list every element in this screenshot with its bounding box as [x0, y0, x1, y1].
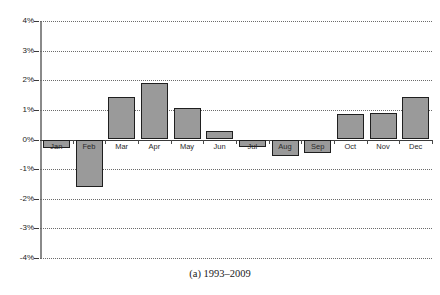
x-axis-tick-label: Jun	[203, 142, 236, 151]
figure: 4%3%2%1%0%-1%-2%-3%-4% JanFebMarAprMayJu…	[0, 0, 440, 295]
y-axis-tick-mark	[34, 51, 39, 52]
bar	[174, 108, 201, 140]
gridline	[40, 258, 432, 259]
x-axis-tick-label: Dec	[399, 142, 432, 151]
x-axis-tick-mark	[432, 140, 433, 144]
y-axis-tick-label: 3%	[0, 47, 34, 55]
y-axis-tick-mark	[34, 169, 39, 170]
y-axis-tick-mark	[34, 21, 39, 22]
y-axis-tick-label: -4%	[0, 254, 34, 262]
bar	[206, 131, 233, 140]
gridline	[40, 199, 432, 200]
x-axis-tick-label: Feb	[73, 142, 106, 151]
y-axis-tick-label: 1%	[0, 106, 34, 114]
y-axis-tick-label: 2%	[0, 76, 34, 84]
bar	[337, 114, 364, 139]
y-axis-tick-label: -1%	[0, 165, 34, 173]
y-axis-tick-mark	[34, 199, 39, 200]
x-axis-tick-label: Oct	[334, 142, 367, 151]
x-axis-tick-label: Aug	[269, 142, 302, 151]
figure-caption: (a) 1993–2009	[0, 268, 440, 279]
x-axis-tick-label: Mar	[105, 142, 138, 151]
x-axis-tick-label: Nov	[367, 142, 400, 151]
bar	[402, 97, 429, 140]
x-axis-tick-label: Jan	[40, 142, 73, 151]
y-axis-tick-mark	[34, 258, 39, 259]
bar	[108, 97, 135, 140]
y-axis-tick-label: 0%	[0, 136, 34, 144]
bar	[141, 83, 168, 139]
y-axis-tick-label: 4%	[0, 17, 34, 25]
y-axis-tick-mark	[34, 140, 39, 141]
y-axis-tick-mark	[34, 110, 39, 111]
gridline	[40, 228, 432, 229]
bar	[370, 113, 397, 140]
y-axis-tick-label: -2%	[0, 195, 34, 203]
y-axis-tick-mark	[34, 228, 39, 229]
gridline	[40, 80, 432, 81]
x-axis-tick-label: Apr	[138, 142, 171, 151]
x-axis-tick-label: May	[171, 142, 204, 151]
y-axis-tick-mark	[34, 80, 39, 81]
y-axis-tick-label: -3%	[0, 224, 34, 232]
x-axis-tick-label: Sep	[301, 142, 334, 151]
gridline	[40, 110, 432, 111]
gridline	[40, 21, 432, 22]
gridline	[40, 51, 432, 52]
x-axis-tick-label: Jul	[236, 142, 269, 151]
